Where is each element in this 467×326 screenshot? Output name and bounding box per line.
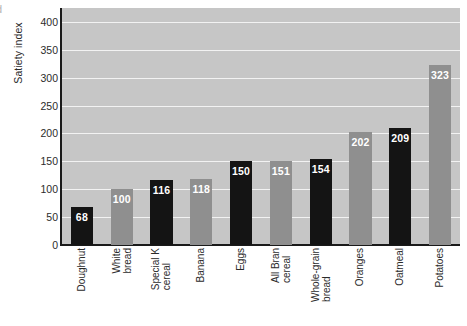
bar-value-label: 116 [150,184,172,196]
bar-value-label: 118 [190,183,212,195]
x-axis-label-slot: Doughnut [62,248,102,326]
x-axis-category-label: Whitebread [111,248,132,274]
x-axis-category-labels: DoughnutWhitebreadSpecial KcerealBananaE… [62,248,460,326]
bar-value-label: 209 [389,132,411,144]
y-axis-tick-label: 100 [28,183,58,195]
x-axis-category-label: Eggs [236,248,247,271]
x-axis-label-slot: Special Kcereal [142,248,182,326]
bar[interactable]: 323 [429,65,451,245]
x-axis-label-slot: Oranges [341,248,381,326]
bar[interactable]: 68 [71,207,93,245]
bar-series: 68100116118150151154202209323 [62,8,460,245]
bar-value-label: 100 [111,193,133,205]
bar[interactable]: 154 [310,159,332,245]
x-axis-label-slot: Potatoes [420,248,460,326]
x-axis-category-label: Potatoes [435,248,446,287]
x-axis-category-label: Oatmeal [395,248,406,286]
bar[interactable]: 202 [349,132,371,245]
x-axis-label-slot: All Brancereal [261,248,301,326]
y-axis-tick-label: 400 [28,16,58,28]
x-axis-label-slot: Oatmeal [380,248,420,326]
x-axis-label-slot: Whitebread [102,248,142,326]
x-axis-category-label: Oranges [355,248,366,286]
bar[interactable]: 118 [190,179,212,245]
x-axis-category-label: Special Kcereal [151,248,172,290]
cropped-caption-remnant: d [0,2,8,16]
bar[interactable]: 150 [230,161,252,245]
bar-value-label: 154 [310,163,332,175]
y-axis-title: Satiety index [12,3,26,103]
x-axis-category-label: All Brancereal [270,248,291,283]
x-axis-label-slot: Whole-grainbread [301,248,341,326]
y-axis-tick-label: 150 [28,155,58,167]
bar[interactable]: 100 [111,189,133,245]
bar-value-label: 68 [71,211,93,223]
y-axis-tick-label: 50 [28,211,58,223]
bar-value-label: 150 [230,165,252,177]
bar[interactable]: 209 [389,128,411,245]
x-axis-label-slot: Banana [181,248,221,326]
x-axis-category-label: Whole-grainbread [310,248,331,302]
y-axis-tick-label: 300 [28,72,58,84]
bar-value-label: 151 [270,165,292,177]
y-axis-tick-labels: 050100150200250300350400 [28,8,58,245]
y-axis-tick-label: 0 [28,239,58,251]
x-axis-category-label: Banana [196,248,207,282]
bar-value-label: 202 [349,136,371,148]
bar-value-label: 323 [429,69,451,81]
y-axis-tick-label: 250 [28,100,58,112]
y-axis-tick-label: 350 [28,44,58,56]
x-axis-category-label: Doughnut [77,248,88,291]
y-axis-tick-label: 200 [28,127,58,139]
bar[interactable]: 151 [270,161,292,245]
bar[interactable]: 116 [150,180,172,245]
x-axis-label-slot: Eggs [221,248,261,326]
